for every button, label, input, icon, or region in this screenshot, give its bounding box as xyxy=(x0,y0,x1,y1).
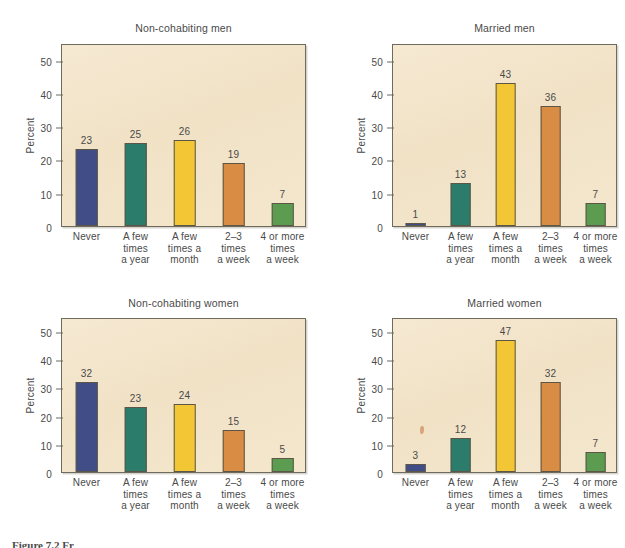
y-axis-tick-label: 20 xyxy=(371,156,383,167)
bar xyxy=(405,464,426,472)
y-axis-tick: 10 xyxy=(371,189,393,200)
y-axis-tick-label: 40 xyxy=(40,89,52,100)
bar-value-label: 13 xyxy=(455,169,467,180)
y-axis-tick-label: 50 xyxy=(371,56,383,67)
y-axis-tick-label: 10 xyxy=(371,189,383,200)
bar-slot: 24 xyxy=(160,319,209,472)
panel-title: Married women xyxy=(392,297,617,309)
bar xyxy=(271,458,294,472)
y-axis-tick-label: 40 xyxy=(371,89,383,100)
y-axis-tick-label: 50 xyxy=(371,328,383,339)
bar xyxy=(124,143,147,226)
bar-value-label: 19 xyxy=(228,149,240,160)
x-axis-label: 2–3timesa week xyxy=(534,477,567,512)
bar xyxy=(540,382,561,472)
bar xyxy=(222,163,245,226)
bar-slot: 3 xyxy=(393,319,438,472)
figure-caption: Figure 7.2 Fr xyxy=(12,539,74,548)
y-axis-tick-label: 30 xyxy=(371,384,383,395)
bar-slot: 7 xyxy=(258,45,307,226)
x-axis-label: A fewtimes amonth xyxy=(168,231,201,266)
bar-value-label: 32 xyxy=(545,368,557,379)
bar-value-label: 12 xyxy=(455,424,467,435)
y-axis-tick: 50 xyxy=(40,328,62,339)
bar-value-label: 15 xyxy=(228,416,240,427)
y-axis-tick: 10 xyxy=(40,189,62,200)
bar-slot: 25 xyxy=(111,45,160,226)
y-axis-tick: 40 xyxy=(40,356,62,367)
x-axis-label: 2–3timesa week xyxy=(217,477,250,512)
y-axis-label: Percent xyxy=(25,365,36,425)
y-axis-tick-label: 20 xyxy=(40,156,52,167)
y-axis-tick: 10 xyxy=(40,440,62,451)
x-axis-label: Never xyxy=(402,477,429,489)
bar-slot: 5 xyxy=(258,319,307,472)
bar-value-label: 7 xyxy=(593,438,599,449)
bar-slot: 36 xyxy=(528,45,573,226)
bar-value-label: 23 xyxy=(130,393,142,404)
y-axis-tick: 30 xyxy=(371,384,393,395)
y-axis-tick: 50 xyxy=(371,56,393,67)
bar xyxy=(75,149,98,226)
x-axis-label: A fewtimesa year xyxy=(121,477,150,512)
bar-value-label: 32 xyxy=(81,368,93,379)
bar-slot: 43 xyxy=(483,45,528,226)
y-axis-tick-label: 30 xyxy=(40,123,52,134)
x-axis-label: A fewtimesa year xyxy=(446,231,475,266)
x-axis-label: A fewtimes amonth xyxy=(489,231,522,266)
bar xyxy=(450,438,471,472)
bars-layer: 31247327 xyxy=(393,319,616,472)
panel-title: Non-cohabiting women xyxy=(61,297,306,309)
y-axis-tick: 10 xyxy=(371,440,393,451)
bar xyxy=(585,452,606,472)
bar xyxy=(75,382,98,472)
y-axis-label: Percent xyxy=(356,365,367,425)
bar-slot: 32 xyxy=(62,319,111,472)
bar-value-label: 47 xyxy=(500,326,512,337)
x-axis-label: Never xyxy=(402,231,429,243)
bar xyxy=(495,83,516,226)
y-axis-tick: 20 xyxy=(371,156,393,167)
y-axis-tick: 40 xyxy=(371,89,393,100)
y-axis-label: Percent xyxy=(25,105,36,165)
bar-value-label: 3 xyxy=(413,450,419,461)
y-axis-tick-mark xyxy=(56,228,63,229)
bar-slot: 32 xyxy=(528,319,573,472)
y-axis-tick: 50 xyxy=(371,328,393,339)
y-axis-tick: 40 xyxy=(40,89,62,100)
plot-area: 01020304050Percent31247327NeverA fewtime… xyxy=(392,318,617,473)
y-axis-tick: 40 xyxy=(371,356,393,367)
bar-slot: 12 xyxy=(438,319,483,472)
y-axis-tick: 20 xyxy=(371,412,393,423)
y-axis-tick: 50 xyxy=(40,56,62,67)
bar xyxy=(495,340,516,472)
y-axis-tick-label: 0 xyxy=(377,469,383,480)
x-axis-label: 2–3timesa week xyxy=(217,231,250,266)
bar xyxy=(124,407,147,472)
bar-slot: 19 xyxy=(209,45,258,226)
bar-value-label: 24 xyxy=(179,390,191,401)
bar-value-label: 36 xyxy=(545,92,557,103)
y-axis-tick: 0 xyxy=(377,469,393,480)
bar-slot: 13 xyxy=(438,45,483,226)
bar-slot: 7 xyxy=(573,319,618,472)
bar-slot: 23 xyxy=(111,319,160,472)
plot-area: 01020304050Percent322324155NeverA fewtim… xyxy=(61,318,306,473)
x-axis-label: A fewtimesa year xyxy=(446,477,475,512)
plot-area: 01020304050Percent232526197NeverA fewtim… xyxy=(61,44,306,227)
y-axis-tick: 30 xyxy=(371,123,393,134)
bar-value-label: 43 xyxy=(500,69,512,80)
x-axis-label: 4 or moretimesa week xyxy=(260,231,304,266)
bar-slot: 47 xyxy=(483,319,528,472)
bars-layer: 11343367 xyxy=(393,45,616,226)
y-axis-tick: 20 xyxy=(40,156,62,167)
y-axis-tick-mark xyxy=(56,474,63,475)
bar xyxy=(405,223,426,226)
y-axis-tick-label: 0 xyxy=(377,223,383,234)
y-axis-tick-label: 20 xyxy=(40,412,52,423)
y-axis-tick-label: 10 xyxy=(40,440,52,451)
y-axis-tick-label: 40 xyxy=(371,356,383,367)
x-axis-label: 4 or moretimesa week xyxy=(573,477,617,512)
panel-title: Married men xyxy=(392,22,617,34)
bar-value-label: 1 xyxy=(413,209,419,220)
